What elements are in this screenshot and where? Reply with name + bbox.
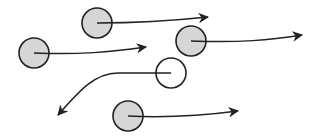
velocity-arrow bbox=[97, 17, 208, 23]
velocity-arrow bbox=[128, 111, 238, 117]
velocity-arrow bbox=[191, 35, 302, 42]
particle-diagram bbox=[0, 0, 318, 138]
velocity-arrow bbox=[34, 47, 146, 54]
particle bbox=[176, 26, 302, 56]
particle bbox=[113, 101, 238, 131]
particle bbox=[19, 38, 146, 68]
